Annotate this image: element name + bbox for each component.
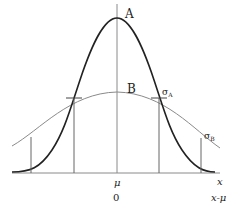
sigma-a-label: σA <box>162 87 173 98</box>
curve-a <box>12 18 215 172</box>
x-label: x <box>217 176 223 187</box>
normal-distribution-diagram: A B σA σB μ x 0 x-μ <box>0 0 235 205</box>
mean-label: μ <box>114 177 121 188</box>
centered-x-label: x-μ <box>211 192 226 203</box>
curve-b <box>12 92 220 148</box>
zero-label: 0 <box>113 192 119 203</box>
sigma-b-label: σB <box>204 131 215 142</box>
curve-a-label: A <box>124 7 134 21</box>
curve-b-label: B <box>127 82 136 96</box>
